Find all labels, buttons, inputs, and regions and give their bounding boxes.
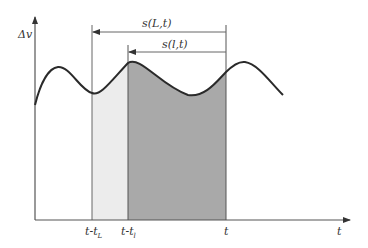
tick-t: t	[224, 226, 228, 237]
tick-t-minus-tL: t-tL	[85, 226, 102, 240]
x-axis-label: t	[337, 226, 341, 237]
y-axis-label: Δv	[18, 29, 32, 40]
s-L-t-label: s(L,t)	[142, 18, 171, 29]
s-l-t-label: s(l,t)	[162, 39, 188, 50]
long-window-region	[92, 63, 128, 220]
diagram-canvas: Δv t s(L,t) s(l,t) t-tL t-tl t	[0, 0, 368, 248]
tick-t-minus-tl: t-tl	[121, 226, 136, 240]
short-window-region	[128, 62, 226, 220]
